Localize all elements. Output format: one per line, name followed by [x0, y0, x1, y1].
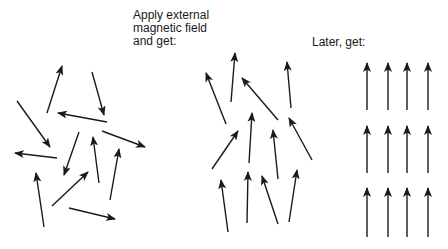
domain-arrow — [92, 72, 104, 115]
domain-arrow — [110, 149, 119, 200]
domain-arrow — [287, 62, 291, 108]
domain-arrow — [249, 113, 252, 163]
aligned-domains-group — [367, 63, 428, 237]
domain-arrow — [212, 131, 238, 169]
domain-arrow — [231, 53, 235, 102]
domain-arrow — [206, 73, 226, 124]
domain-arrow — [262, 176, 278, 224]
domain-arrow — [58, 113, 107, 122]
domain-arrow — [102, 131, 145, 147]
domain-arrow — [93, 137, 99, 183]
domain-arrow — [52, 172, 88, 206]
domain-arrow — [17, 101, 50, 147]
random-domains-group — [15, 66, 145, 227]
magnetic-domains-diagram — [0, 0, 448, 249]
domain-arrow — [15, 153, 57, 158]
domain-arrow — [47, 66, 62, 113]
domain-arrow — [221, 180, 228, 232]
domain-arrow — [64, 132, 79, 175]
domain-arrow — [69, 208, 115, 219]
domain-arrow — [289, 118, 312, 160]
domain-arrow — [289, 170, 297, 222]
partially-aligned-domains-group — [206, 53, 312, 232]
domain-arrow — [36, 173, 44, 227]
domain-arrow — [247, 172, 248, 223]
domain-arrow — [242, 78, 278, 120]
domain-arrow — [273, 130, 278, 179]
